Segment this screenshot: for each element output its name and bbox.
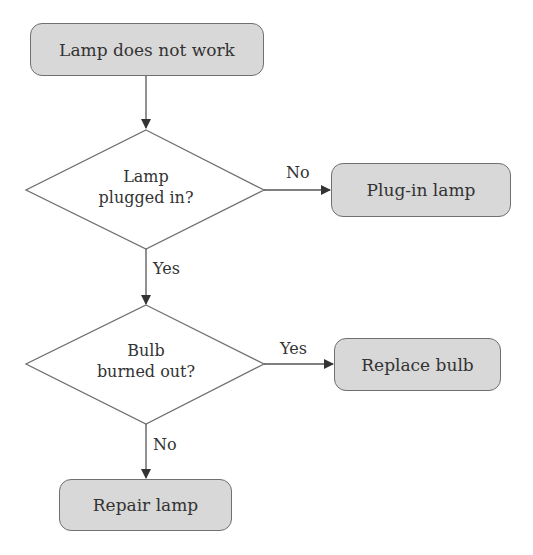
decision1-line2: plugged in?	[66, 187, 226, 208]
edge-label-d1-no: No	[286, 163, 310, 182]
node-replace: Replace bulb	[334, 338, 501, 391]
node-plugin-label: Plug-in lamp	[367, 180, 476, 200]
decision1-line1: Lamp	[66, 166, 226, 187]
node-start-label: Lamp does not work	[59, 40, 235, 60]
edge-label-d2-yes: Yes	[280, 339, 307, 358]
decision2-line2: burned out?	[66, 361, 226, 382]
connectors	[0, 0, 533, 555]
node-plugin: Plug-in lamp	[331, 163, 511, 217]
node-start: Lamp does not work	[30, 23, 264, 76]
decision1-label: Lamp plugged in?	[66, 166, 226, 208]
edge-label-d2-no: No	[153, 435, 177, 454]
node-repair: Repair lamp	[59, 479, 232, 531]
decision2-line1: Bulb	[66, 340, 226, 361]
edge-label-d1-yes: Yes	[153, 259, 180, 278]
node-replace-label: Replace bulb	[361, 355, 473, 375]
node-repair-label: Repair lamp	[93, 495, 198, 515]
decision2-label: Bulb burned out?	[66, 340, 226, 382]
